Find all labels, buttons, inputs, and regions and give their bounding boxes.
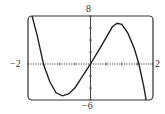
function-curve <box>32 16 146 100</box>
axes <box>28 16 153 100</box>
plot-area <box>0 0 165 114</box>
